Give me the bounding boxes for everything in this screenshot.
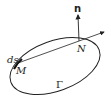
secant-line-mn <box>18 32 104 63</box>
normal-label: n <box>74 4 81 14</box>
point-m-label: M <box>16 66 26 76</box>
point-n-label: N <box>77 44 86 54</box>
curve-gamma-label: Γ <box>56 80 63 90</box>
diagram-canvas: n N ds M Γ <box>0 0 111 111</box>
normal-vector-n <box>78 15 79 41</box>
element-ds-label: ds <box>7 55 19 65</box>
